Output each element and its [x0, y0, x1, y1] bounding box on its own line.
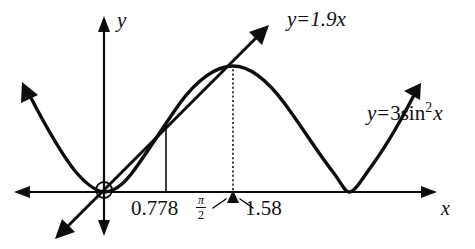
curve-equation-equals: =: [376, 101, 390, 125]
x-axis-arrow-left: [14, 186, 30, 198]
curve-equation-coefficient: 3sin: [390, 101, 425, 125]
x-axis-arrow-right: [421, 186, 437, 198]
x-axis-label: x: [441, 198, 450, 218]
y-axis-label: y: [117, 10, 126, 31]
curve-equation-lhs: y: [367, 101, 376, 125]
line-equation-label: y=1.9x: [287, 9, 346, 30]
half-pi-denominator: 2: [196, 209, 206, 221]
curve-equation-label: y=3sin2x: [367, 101, 443, 124]
line-equation-rhs: 1.9x: [310, 7, 346, 31]
curve-path: [30, 66, 413, 192]
graph-figure: y=1.9x y=3sin2x y x 0.778 π 2 1.58: [0, 0, 475, 249]
half-pi-fraction-label: π 2: [196, 194, 206, 221]
y-axis: [98, 16, 110, 236]
line-equation-lhs: y: [287, 7, 296, 31]
y-axis-arrow-up: [98, 16, 110, 32]
root-value-label: 0.778: [131, 198, 178, 219]
curve-equation-variable: x: [432, 101, 443, 125]
half-pi-numerator: π: [196, 194, 206, 206]
peak-value-label: 1.58: [245, 198, 282, 219]
sine-squared-curve: [21, 66, 421, 192]
half-pi-leader-line: [213, 199, 226, 208]
y-axis-arrow-down: [98, 220, 110, 236]
curve-arrow-left: [21, 82, 38, 103]
line-equation-equals: =: [296, 7, 310, 31]
x-axis: [14, 186, 437, 198]
